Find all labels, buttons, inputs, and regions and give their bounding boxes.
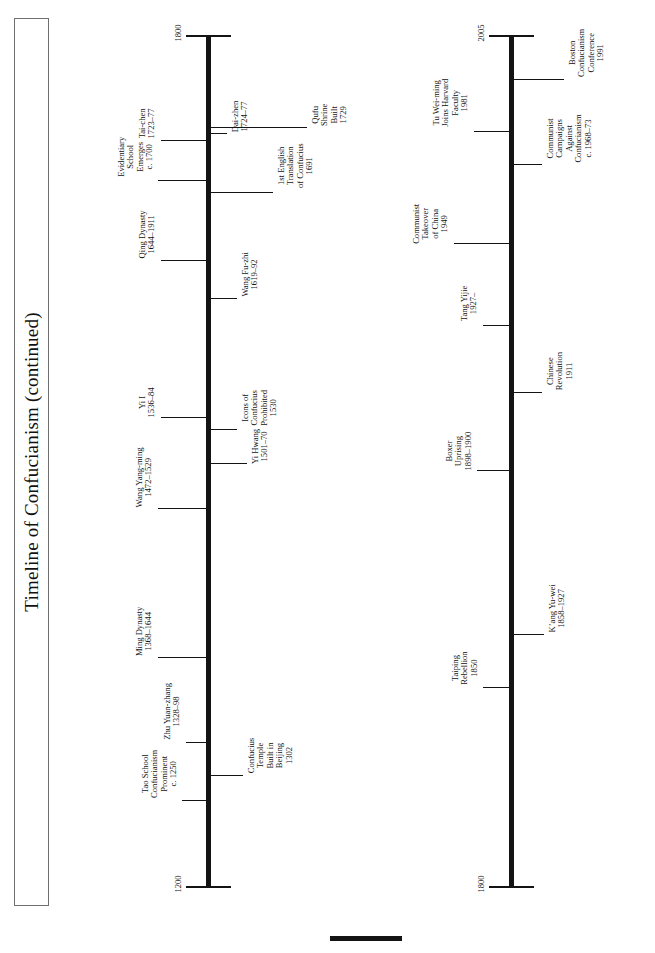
- lower-right-event-label-text: K’ang Yu-wei1858–1927: [548, 579, 567, 638]
- event-line: 1927–: [470, 279, 479, 330]
- upper-left-event-tick: [158, 508, 206, 509]
- event-line: 1724–77: [240, 95, 249, 137]
- event-line: 1536–84: [148, 384, 157, 421]
- upper-left-event-label-text: Tai-chen1723–77: [138, 102, 157, 144]
- event-line: 1858–1927: [557, 579, 566, 638]
- bottom-rule: [330, 936, 402, 941]
- event-line: 1472–1529: [145, 444, 154, 512]
- upper-left-event-label: Tai-chen1723–77: [138, 102, 157, 144]
- lower-left-event-label: Tu Wei-mingJoins HarvardFaculty1981: [432, 71, 470, 135]
- lower-left-event-label-text: CommunistTakeoverof China1949: [412, 201, 450, 247]
- upper-axis-year-top-text: 1800: [173, 24, 183, 41]
- upper-left-event-label-text: Tao SchoolConfucianismProminentc. 1250: [140, 745, 178, 804]
- upper-left-event-label: Tao SchoolConfucianismProminentc. 1250: [140, 745, 178, 804]
- lower-right-event-label-text: BostonConfucianismConference1991: [568, 24, 606, 83]
- event-line: 1619–92: [250, 247, 259, 302]
- event-line: 1530: [269, 383, 278, 434]
- event-line: 1691: [305, 137, 314, 196]
- lower-left-event-label: BoxerUprising1898–1900: [445, 428, 473, 474]
- lower-right-event-tick: [514, 634, 544, 635]
- lower-left-event-label: TaipingRebellion1850: [451, 645, 479, 691]
- event-line: 1898–1900: [464, 428, 473, 474]
- lower-left-event-tick: [474, 131, 509, 132]
- upper-left-event-tick: [182, 800, 206, 801]
- lower-timeline-axis: [509, 35, 514, 888]
- upper-right-event-label-text: 1st EnglishTranslationof Confucius1691: [277, 137, 315, 196]
- upper-right-event-label: Icons ofConfuciusProhibited1530: [241, 383, 279, 434]
- upper-left-event-label-text: Qing Dynasty1644–1911: [138, 205, 157, 264]
- upper-right-event-tick: [211, 463, 247, 464]
- upper-right-event-tick: [211, 298, 237, 299]
- lower-axis-year-top: 2005: [466, 28, 496, 38]
- upper-right-event-label: ConfuciusTempleBuilt inBeijing1302: [247, 733, 294, 779]
- upper-right-event-label: 1st EnglishTranslationof Confucius1691: [277, 137, 315, 196]
- event-line: 1302: [285, 733, 294, 779]
- page-title: Timeline of Confucianism (continued): [21, 312, 43, 611]
- event-line: 1850: [470, 645, 479, 691]
- upper-left-event-label: Qing Dynasty1644–1911: [138, 205, 157, 264]
- upper-right-event-label: Dai-zhen1724–77: [231, 95, 250, 137]
- upper-left-event-tick: [161, 417, 206, 418]
- upper-right-event-tick: [211, 775, 243, 776]
- lower-right-event-label-text: ChineseRevolution1911: [546, 346, 574, 397]
- upper-left-event-label-text: Zhu Yuan-zhang1328–98: [163, 678, 182, 746]
- upper-right-event-tick: [211, 127, 307, 128]
- lower-axis-year-bottom-text: 1800: [476, 875, 486, 892]
- upper-left-event-label-text: Wang Yang-ming1472–1529: [135, 444, 154, 512]
- event-line: Confucianism: [150, 745, 159, 804]
- event-line: 1723–77: [148, 102, 157, 144]
- lower-right-event-tick: [514, 392, 542, 393]
- upper-right-event-tick: [211, 192, 273, 193]
- lower-right-event-label: ChineseRevolution1911: [546, 346, 574, 397]
- lower-left-event-label-text: Tang Yijie1927–: [460, 279, 479, 330]
- upper-left-event-tick: [161, 260, 206, 261]
- upper-axis-year-top: 1800: [163, 28, 193, 38]
- lower-axis-year-bottom: 1800: [466, 879, 496, 889]
- lower-left-event-tick: [454, 243, 509, 244]
- event-line: 1644–1911: [148, 205, 157, 264]
- event-line: c. 1968–73: [584, 109, 593, 168]
- lower-left-event-tick: [477, 470, 509, 471]
- upper-left-event-label: Zhu Yuan-zhang1328–98: [163, 678, 182, 746]
- upper-left-event-label-text: Ming Dynasty1368–1644: [135, 602, 154, 661]
- upper-right-event-tick: [211, 429, 237, 430]
- upper-right-event-label-text: ConfuciusTempleBuilt inBeijing1302: [247, 733, 294, 779]
- lower-axis-year-top-text: 2005: [476, 24, 486, 41]
- upper-left-event-label-text: Yi I1536–84: [138, 384, 157, 421]
- upper-right-event-label-text: Wang Fu-zhi1619–92: [241, 247, 260, 302]
- lower-right-event-tick: [514, 164, 542, 165]
- lower-left-event-label-text: BoxerUprising1898–1900: [445, 428, 473, 474]
- lower-right-event-label: K’ang Yu-wei1858–1927: [548, 579, 567, 638]
- page-title-box: Timeline of Confucianism (continued): [14, 18, 49, 906]
- lower-left-event-label-text: TaipingRebellion1850: [451, 645, 479, 691]
- event-line: Confucius: [250, 383, 259, 434]
- event-line: 1981: [461, 71, 470, 135]
- upper-left-event-label: Yi I1536–84: [138, 384, 157, 421]
- lower-left-event-label: CommunistTakeoverof China1949: [412, 201, 450, 247]
- lower-left-event-tick: [483, 325, 509, 326]
- event-line: 1949: [441, 201, 450, 247]
- upper-left-event-label: Wang Yang-ming1472–1529: [135, 444, 154, 512]
- upper-right-event-label-text: QufuShrineBuilt1729: [311, 98, 349, 131]
- upper-left-event-tick: [186, 742, 206, 743]
- upper-left-event-tick: [158, 180, 206, 181]
- upper-right-event-label: Wang Fu-zhi1619–92: [241, 247, 260, 302]
- upper-right-event-label-text: Dai-zhen1724–77: [231, 95, 250, 137]
- event-line: 1368–1644: [145, 602, 154, 661]
- upper-axis-year-bottom-text: 1200: [173, 875, 183, 892]
- lower-left-event-label-text: Tu Wei-mingJoins HarvardFaculty1981: [432, 71, 470, 135]
- lower-right-event-label: CommunistCampaignsAgainstConfucianismc. …: [546, 109, 593, 168]
- upper-right-event-tick: [211, 133, 227, 134]
- event-line: 1328–98: [173, 678, 182, 746]
- event-line: 1729: [339, 98, 348, 131]
- lower-left-event-tick: [483, 687, 509, 688]
- lower-left-event-label: Tang Yijie1927–: [460, 279, 479, 330]
- timeline-page: Timeline of Confucianism (continued) 180…: [0, 0, 655, 953]
- event-line: 1991: [596, 24, 605, 83]
- upper-timeline-axis: [206, 35, 211, 888]
- event-line: 1911: [565, 346, 574, 397]
- event-line: c. 1250: [169, 745, 178, 804]
- lower-right-event-label-text: CommunistCampaignsAgainstConfucianismc. …: [546, 109, 593, 168]
- upper-right-event-label: QufuShrineBuilt1729: [311, 98, 349, 131]
- upper-left-event-label: Ming Dynasty1368–1644: [135, 602, 154, 661]
